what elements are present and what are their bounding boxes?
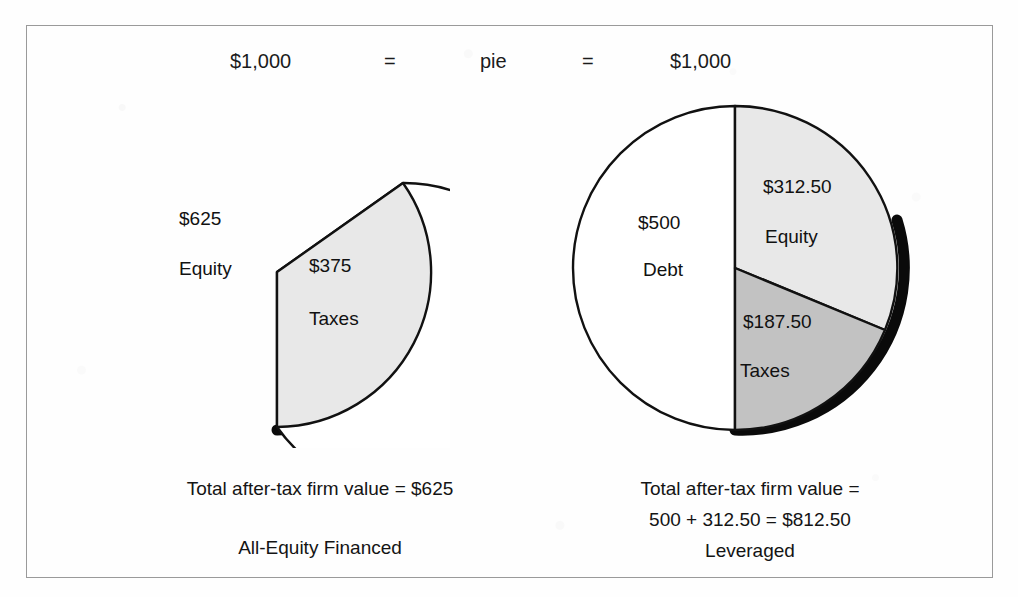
right-equity-value-label: $312.50 [763, 176, 832, 198]
right-taxes-name-label: Taxes [740, 360, 790, 382]
header-equals-sign-2: = [582, 48, 594, 74]
header-right-value: $1,000 [670, 48, 731, 74]
header-left-value: $1,000 [230, 48, 291, 74]
right-caption-total-line1: Total after-tax firm value = [540, 473, 960, 504]
right-equity-name-label: Equity [765, 226, 818, 248]
right-caption-title: Leveraged [540, 535, 960, 566]
right-chart-caption: Total after-tax firm value = 500 + 312.5… [540, 473, 960, 566]
left-caption-title: All-Equity Financed [100, 532, 540, 563]
header-pie-label: pie [480, 48, 507, 74]
left-taxes-name-label: Taxes [309, 308, 359, 330]
figure-page: $1,000 = pie = $1,000 $625 Equity $375 T… [0, 0, 1018, 597]
pie-equation-header: $1,000 = pie = $1,000 [180, 48, 820, 82]
left-caption-total: Total after-tax firm value = $625 [100, 473, 540, 504]
left-taxes-value-label: $375 [309, 255, 351, 277]
right-debt-value-label: $500 [638, 212, 680, 234]
left-pie-chart: $625 Equity $375 Taxes [110, 103, 450, 448]
right-pie-chart: $500 Debt $312.50 Equity $187.50 Taxes [560, 100, 920, 445]
right-pie-svg [560, 100, 920, 445]
left-chart-caption: Total after-tax firm value = $625 All-Eq… [100, 473, 540, 563]
right-caption-total-line2: 500 + 312.50 = $812.50 [540, 504, 960, 535]
header-equals-sign-1: = [384, 48, 396, 74]
left-pie-svg [110, 103, 450, 448]
left-equity-value-label: $625 [179, 208, 221, 230]
right-taxes-value-label: $187.50 [743, 311, 812, 333]
right-debt-name-label: Debt [643, 259, 683, 281]
left-equity-name-label: Equity [179, 258, 232, 280]
